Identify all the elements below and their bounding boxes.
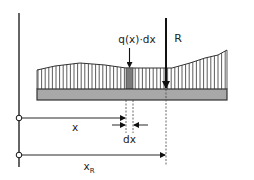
dimension-xR-label: xR [83,160,94,175]
load-envelope-curve [37,50,227,70]
dimension-dx-label: dx [123,133,136,145]
load-element-strip [126,68,133,89]
resultant-label: R [174,32,182,45]
dimension-x-label: x [72,121,78,133]
diagram-canvas: q(x)·dx R x dx xR [0,0,254,180]
load-element-label: q(x)·dx [118,33,155,45]
beam [37,89,227,100]
dimension-x-origin [16,115,22,121]
dimension-xR-origin [16,152,22,158]
